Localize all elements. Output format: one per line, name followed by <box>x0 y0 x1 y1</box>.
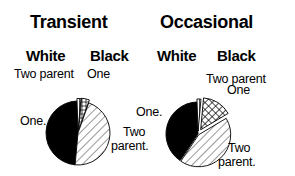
chart-title-transient: Transient <box>30 12 107 33</box>
pie-transient <box>46 98 110 165</box>
group-label-black-transient: Black <box>90 47 129 64</box>
group-label-white-occasional: White <box>157 47 196 64</box>
pie-slice-white-one-parent <box>46 101 78 165</box>
pie-slice-white-two-parent <box>197 99 201 131</box>
label-occasional-two: Two <box>228 142 250 155</box>
label-occasional-one: One <box>227 84 250 97</box>
label-transient-two: Two <box>123 126 145 139</box>
label-occasional-parent-dot: parent. <box>218 156 256 169</box>
label-occasional-one-dot: One. <box>136 106 162 119</box>
label-transient-one: One <box>87 68 110 81</box>
label-transient-two-parent: Two parent <box>14 68 74 81</box>
label-transient-one-dot: One. <box>20 115 46 128</box>
group-label-black-occasional: Black <box>217 47 256 64</box>
group-label-white-transient: White <box>26 47 65 64</box>
chart-title-occasional: Occasional <box>160 12 253 33</box>
label-transient-parent-dot: parent. <box>111 140 149 153</box>
